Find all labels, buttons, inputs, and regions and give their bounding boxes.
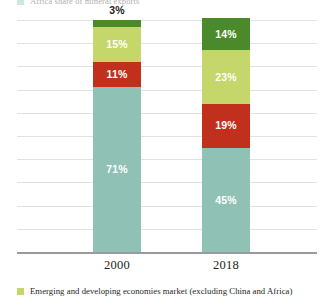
- legend-swatch-icon: [17, 288, 24, 295]
- x-axis-label-2000: 2000: [77, 258, 157, 273]
- gridline: [17, 182, 317, 183]
- gridline: [17, 159, 317, 160]
- bar-segment-value: 14%: [215, 29, 237, 40]
- bar-segment-value: 23%: [215, 72, 237, 83]
- gridline: [17, 206, 317, 207]
- bar-segment-value: 11%: [106, 69, 127, 80]
- gridline: [17, 43, 317, 44]
- bar-segment-value: 19%: [215, 120, 237, 131]
- bar-segment-2000-teal[interactable]: 71%: [93, 87, 141, 252]
- bar-segment-2018-red[interactable]: 19%: [202, 104, 250, 148]
- bar-segment-value: 3%: [109, 5, 125, 16]
- chart-plot-area: 3%15%11%71%14%23%19%45%: [0, 20, 325, 254]
- gridline: [17, 90, 317, 91]
- bar-segment-2000-dark-green[interactable]: 3%: [93, 20, 141, 27]
- bar-segment-2018-light-green[interactable]: 23%: [202, 50, 250, 103]
- bar-segment-value: 45%: [215, 195, 237, 206]
- bar-segment-2018-dark-green[interactable]: 14%: [202, 18, 250, 50]
- gridline: [17, 229, 317, 230]
- legend-label: Emerging and developing economies market…: [30, 286, 292, 296]
- bar-segment-2018-teal[interactable]: 45%: [202, 148, 250, 252]
- bar-group-2018[interactable]: 14%23%19%45%: [202, 18, 250, 252]
- legend-swatch-icon: [17, 0, 24, 5]
- bar-segment-value: 71%: [106, 164, 128, 175]
- gridline: [17, 20, 317, 21]
- x-axis: 2000 2018: [0, 258, 325, 278]
- gridline: [17, 66, 317, 67]
- gridline: [17, 136, 317, 137]
- axis-baseline: [17, 252, 317, 254]
- x-axis-label-2018: 2018: [186, 258, 266, 273]
- clipped-top-legend: Africa share of mineral exports: [0, 0, 325, 6]
- bar-group-2000[interactable]: 3%15%11%71%: [93, 20, 141, 252]
- bar-segment-2000-light-green[interactable]: 15%: [93, 27, 141, 62]
- chart-legend: Emerging and developing economies market…: [0, 286, 325, 296]
- gridlines: [17, 20, 317, 254]
- bar-segment-2000-red[interactable]: 11%: [93, 62, 141, 88]
- bar-segment-value: 15%: [106, 39, 128, 50]
- gridline: [17, 113, 317, 114]
